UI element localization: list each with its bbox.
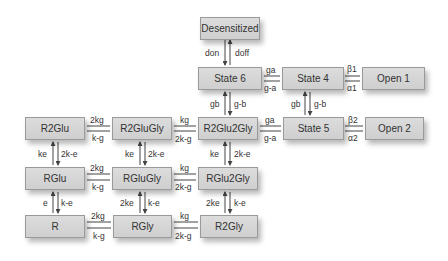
rate-label: kg xyxy=(180,212,189,221)
rate-label: k-e xyxy=(234,199,246,208)
rate-label: don xyxy=(205,49,219,58)
rate-label: α2 xyxy=(348,134,358,143)
rate-label: k-g xyxy=(93,232,105,241)
rate-label: k-e xyxy=(61,199,73,208)
rate-label: α1 xyxy=(347,84,357,93)
state-6: State 6 xyxy=(198,67,262,90)
rate-label: 2k-e xyxy=(148,150,165,159)
rate-label: 2kg xyxy=(90,116,104,125)
state-5: State 5 xyxy=(283,117,344,140)
rate-label: k-g xyxy=(92,134,104,143)
state-r: R xyxy=(25,215,85,238)
state-rglugly: RGluGly xyxy=(112,167,172,190)
rate-label: g-a xyxy=(264,134,276,143)
rate-label: β1 xyxy=(347,65,357,74)
rate-label: 2k-g xyxy=(175,183,192,192)
state-4: State 4 xyxy=(282,67,344,90)
state-open-2: Open 2 xyxy=(365,117,424,140)
state-r2glu2gly: R2Glu2Gly xyxy=(198,117,258,140)
rate-label: β2 xyxy=(348,116,358,125)
state-open-1: Open 1 xyxy=(362,67,425,90)
rate-label: g-a xyxy=(264,84,276,93)
rate-label: ke xyxy=(210,150,219,159)
rate-label: ga xyxy=(265,116,274,125)
rate-label: e xyxy=(43,199,48,208)
rate-label: 2ke xyxy=(120,199,134,208)
rate-label: 2kg xyxy=(90,164,104,173)
rate-label: k-e xyxy=(148,199,160,208)
state-desensitized: Desensitized xyxy=(200,17,260,40)
rate-label: 2k-g xyxy=(175,135,192,144)
rate-label: kg xyxy=(180,116,189,125)
state-rglu: RGlu xyxy=(25,167,85,190)
rate-label: 2kg xyxy=(91,212,105,221)
rate-label: ke xyxy=(38,150,47,159)
rate-label: ke xyxy=(125,150,134,159)
rate-label: g-b xyxy=(234,100,246,109)
state-rglu2gly: RGlu2Gly xyxy=(198,167,258,190)
rate-label: kg xyxy=(180,164,189,173)
state-rgly: RGly xyxy=(113,215,172,238)
rate-label: 2k-e xyxy=(234,150,251,159)
rate-label: 2k-e xyxy=(61,150,78,159)
rate-label: doff xyxy=(235,49,249,58)
state-r2glu: R2Glu xyxy=(25,117,85,140)
rate-label: ga xyxy=(266,66,275,75)
rate-label: 2ke xyxy=(206,199,220,208)
state-r2gly: R2Gly xyxy=(200,215,258,238)
rate-label: g-b xyxy=(314,100,326,109)
rate-label: k-g xyxy=(92,183,104,192)
rate-label: gb xyxy=(210,100,219,109)
rate-label: gb xyxy=(291,100,300,109)
rate-label: 2k-g xyxy=(175,232,192,241)
state-r2glugly: R2GluGly xyxy=(112,117,172,140)
